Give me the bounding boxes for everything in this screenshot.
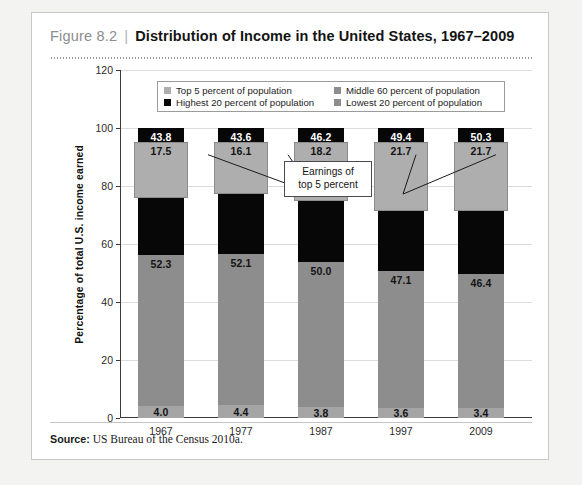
bar-value-label: 21.7: [391, 145, 412, 157]
legend-swatch-icon: [164, 99, 171, 106]
bar-value-label: 21.7: [471, 145, 492, 157]
bar-value-label: 17.5: [151, 145, 172, 157]
bar-segment-lowest20: 4.0: [138, 406, 184, 418]
legend-item: Middle 60 percent of population: [334, 85, 498, 96]
bar-value-label: 50.0: [311, 265, 332, 277]
bar-group: 3.850.046.218.21987: [298, 70, 344, 418]
figure-card: Figure 8.2 | Distribution of Income in t…: [31, 12, 549, 460]
legend-item: Highest 20 percent of population: [164, 97, 328, 108]
bar-segment-middle60: 52.3: [138, 255, 184, 407]
bar-segment-middle60: 50.0: [298, 262, 344, 407]
bar-overlay-top5: 21.7: [454, 142, 508, 211]
bar-group: 3.446.450.321.72009: [458, 70, 504, 418]
legend-swatch-icon: [164, 87, 171, 94]
bar-overlay-top5: 21.7: [374, 142, 428, 211]
source-label: Source:: [50, 433, 90, 445]
bar-group: 4.452.143.616.11977: [218, 70, 264, 418]
callout-line-2: top 5 percent: [290, 179, 366, 192]
bar-segment-middle60: 46.4: [458, 274, 504, 409]
plot-area: 0204060801001204.052.343.817.519674.452.…: [120, 70, 532, 418]
bar-value-label: 47.1: [391, 274, 412, 286]
source-divider: [50, 422, 532, 423]
bar-segment-middle60: 52.1: [218, 254, 264, 405]
source-line: Source: US Bureau of the Census 2010a.: [50, 433, 243, 445]
bar-value-label: 4.0: [154, 406, 169, 418]
bar-segment-lowest20: 3.8: [298, 407, 344, 418]
bar-value-label: 3.8: [314, 407, 329, 419]
bar-group: 3.647.149.421.71997: [378, 70, 424, 418]
legend-swatch-icon: [334, 87, 341, 94]
figure-header: Figure 8.2 | Distribution of Income in t…: [50, 27, 534, 49]
bar-overlay-top5: 16.1: [214, 142, 268, 195]
y-axis-title: Percentage of total U.S. income earned: [72, 70, 86, 418]
bar-segment-lowest20: 3.4: [458, 408, 504, 418]
page-background: Figure 8.2 | Distribution of Income in t…: [0, 0, 582, 485]
bar-segment-middle60: 47.1: [378, 271, 424, 408]
y-axis-line: [120, 70, 121, 418]
legend-item: Lowest 20 percent of population: [334, 97, 498, 108]
annotation-callout: Earnings of top 5 percent: [284, 161, 372, 197]
bar-value-label: 4.4: [234, 406, 249, 418]
legend-label: Lowest 20 percent of population: [346, 97, 482, 108]
x-axis-tick-label: 1997: [378, 425, 424, 437]
legend-label: Highest 20 percent of population: [176, 97, 314, 108]
figure-separator: |: [124, 27, 128, 44]
bar-value-label: 3.6: [394, 407, 409, 419]
legend-swatch-icon: [334, 99, 341, 106]
source-text: US Bureau of the Census 2010a.: [93, 433, 243, 445]
y-axis-tick-label: 80: [101, 180, 113, 192]
bar-segment-lowest20: 3.6: [378, 408, 424, 418]
legend-item: Top 5 percent of population: [164, 85, 328, 96]
y-axis-tick-label: 60: [101, 238, 113, 250]
y-axis-tick-label: 100: [95, 122, 113, 134]
figure-title: Distribution of Income in the United Sta…: [135, 28, 514, 44]
y-axis-tick-label: 20: [101, 354, 113, 366]
y-axis-tick-label: 40: [101, 296, 113, 308]
header-dotted-rule: [50, 57, 532, 59]
chart-legend: Top 5 percent of populationMiddle 60 per…: [157, 81, 505, 112]
bar-value-label: 52.3: [151, 258, 172, 270]
bar-value-label: 16.1: [231, 145, 252, 157]
figure-number: Figure 8.2: [50, 28, 117, 44]
x-axis-tick-label: 2009: [458, 425, 504, 437]
bar-value-label: 46.4: [471, 277, 492, 289]
legend-label: Middle 60 percent of population: [346, 85, 480, 96]
bar-segment-lowest20: 4.4: [218, 405, 264, 418]
callout-line-1: Earnings of: [290, 166, 366, 179]
legend-label: Top 5 percent of population: [176, 85, 292, 96]
bar-overlay-top5: 17.5: [134, 142, 188, 199]
bar-value-label: 18.2: [311, 145, 332, 157]
bar-value-label: 3.4: [474, 407, 489, 419]
x-axis-tick-label: 1987: [298, 425, 344, 437]
y-axis-tick-label: 120: [95, 64, 113, 76]
y-axis-tick-mark: [116, 418, 120, 419]
bar-group: 4.052.343.817.51967: [138, 70, 184, 418]
bar-value-label: 52.1: [231, 257, 252, 269]
y-axis-title-text: Percentage of total U.S. income earned: [74, 145, 85, 344]
